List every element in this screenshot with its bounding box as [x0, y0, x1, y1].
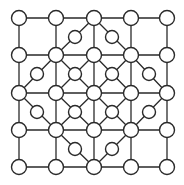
board-node — [49, 48, 64, 63]
board-node — [87, 86, 102, 101]
board-node — [12, 160, 27, 175]
board-node — [12, 11, 27, 26]
board-node — [49, 11, 64, 26]
board-node — [124, 11, 139, 26]
board-node — [49, 160, 64, 175]
board-node — [87, 11, 102, 26]
board-node — [160, 86, 175, 101]
board-node — [124, 48, 139, 63]
board-node — [49, 123, 64, 138]
midpoint-node — [31, 68, 44, 81]
midpoint-node — [106, 68, 119, 81]
midpoint-node — [143, 106, 156, 119]
board-node — [160, 123, 175, 138]
midpoint-node — [69, 31, 82, 44]
midpoint-node — [106, 106, 119, 119]
midpoint-node — [31, 106, 44, 119]
board-node — [87, 48, 102, 63]
board-node — [124, 123, 139, 138]
midpoint-node — [69, 68, 82, 81]
board-node — [124, 160, 139, 175]
board-node — [124, 86, 139, 101]
midpoint-node — [69, 106, 82, 119]
midpoint-node — [143, 68, 156, 81]
board-node — [49, 86, 64, 101]
board-node — [160, 160, 175, 175]
board-node — [87, 123, 102, 138]
midpoint-node — [106, 143, 119, 156]
board-node — [87, 160, 102, 175]
board-node — [12, 48, 27, 63]
midpoint-node — [106, 31, 119, 44]
board-node — [12, 123, 27, 138]
board-node — [12, 86, 27, 101]
game-board-diagram — [0, 0, 184, 185]
board-node — [160, 48, 175, 63]
midpoint-node — [69, 143, 82, 156]
board-node — [160, 11, 175, 26]
